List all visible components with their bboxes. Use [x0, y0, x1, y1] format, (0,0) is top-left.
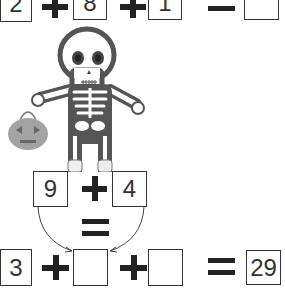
top-plus-2 [120, 0, 146, 18]
middle-plus [82, 176, 107, 201]
top-equals-sign [208, 6, 235, 11]
bottom-plus-2 [120, 255, 147, 280]
top-plus-1 [42, 0, 68, 18]
skeleton-icon [0, 22, 160, 172]
top-term-1-box: 2 [0, 0, 32, 22]
top-term-2-box: 8 [73, 0, 107, 20]
middle-left-box: 9 [33, 171, 68, 207]
bottom-plus-1 [42, 255, 69, 280]
middle-right-box: 4 [112, 171, 147, 207]
middle-equals [82, 219, 109, 236]
top-term-3-box: 1 [148, 0, 182, 20]
bottom-blank-1-box[interactable] [73, 249, 108, 286]
top-answer-box[interactable] [244, 0, 279, 20]
bottom-blank-2-box[interactable] [148, 249, 183, 286]
bottom-first-box: 3 [0, 249, 32, 286]
bottom-equals [208, 258, 235, 275]
bottom-result-box: 29 [246, 250, 281, 285]
